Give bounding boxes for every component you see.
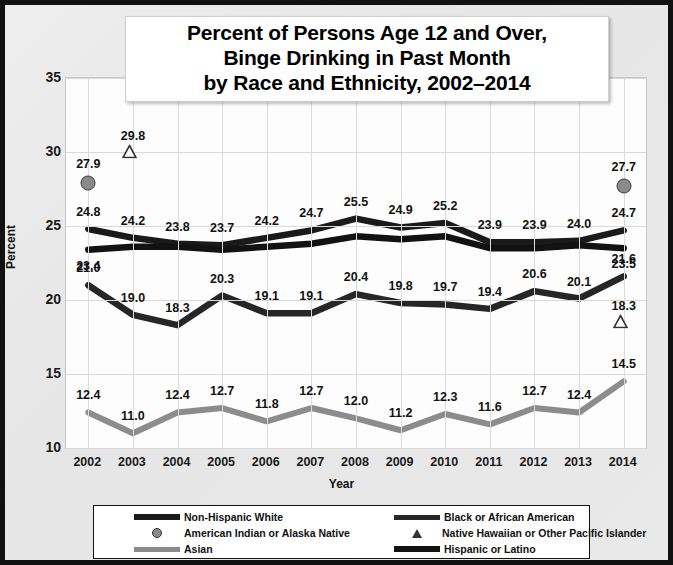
legend-item[interactable]: Non-Hispanic White xyxy=(134,509,283,525)
data-point-label: 18.3 xyxy=(165,301,189,315)
data-point-label: 27.9 xyxy=(76,157,100,171)
data-point-label: 24.7 xyxy=(299,206,323,220)
y-axis-tick-label: 20 xyxy=(15,291,61,307)
legend-row: American Indian or Alaska NativeNative H… xyxy=(94,525,589,541)
title-line-2: Binge Drinking in Past Month xyxy=(134,46,600,71)
data-point-label: 18.3 xyxy=(612,299,636,313)
x-axis-title: Year xyxy=(5,477,673,491)
y-axis-tick-label: 25 xyxy=(15,217,61,233)
data-point-label: 20.6 xyxy=(522,267,546,281)
data-point-label: 24.7 xyxy=(612,206,636,220)
plot-area: 24.824.223.823.724.224.725.524.925.223.9… xyxy=(65,77,647,449)
legend-line-icon xyxy=(394,546,440,552)
data-point-label: 19.7 xyxy=(433,280,457,294)
data-point-label: 27.7 xyxy=(612,160,636,174)
data-point-label: 21.0 xyxy=(76,261,100,275)
data-point-label: 23.8 xyxy=(165,220,189,234)
data-point-label: 20.4 xyxy=(344,270,368,284)
data-point-label: 20.1 xyxy=(567,275,591,289)
legend-line-icon xyxy=(394,515,440,520)
data-point-label: 12.7 xyxy=(299,384,323,398)
gridline-vertical xyxy=(356,78,357,448)
legend-line-icon xyxy=(134,514,180,520)
data-point-label: 19.4 xyxy=(478,285,502,299)
data-point-label: 12.4 xyxy=(165,388,189,402)
title-line-3: by Race and Ethnicity, 2002–2014 xyxy=(134,71,600,96)
legend-item-label: American Indian or Alaska Native xyxy=(184,527,350,539)
marker-circle xyxy=(616,179,631,194)
legend-item-label: Native Hawaiian or Other Pacific Islande… xyxy=(442,527,646,539)
legend-item-label: Non-Hispanic White xyxy=(184,511,283,523)
data-point-label: 11.8 xyxy=(255,397,279,411)
data-point-label: 19.8 xyxy=(388,279,412,293)
legend-triangle-icon xyxy=(412,529,422,538)
data-point-label: 24.9 xyxy=(388,203,412,217)
data-point-label: 12.7 xyxy=(522,384,546,398)
x-axis-tick-label: 2014 xyxy=(596,455,650,469)
legend-item-label: Black or African American xyxy=(444,511,575,523)
data-point-label: 24.0 xyxy=(567,217,591,231)
data-point-label: 12.4 xyxy=(567,388,591,402)
data-point-label: 23.9 xyxy=(478,218,502,232)
y-axis-title: Percent xyxy=(4,225,18,269)
y-axis-tick-label: 35 xyxy=(15,69,61,85)
data-point-label: 19.0 xyxy=(121,291,145,305)
x-axis-ticks: 2002200320042005200620072008200920102011… xyxy=(65,455,647,475)
legend-line-icon xyxy=(134,547,180,552)
y-axis-tick-label: 10 xyxy=(15,439,61,455)
chart-legend: Non-Hispanic WhiteBlack or African Ameri… xyxy=(93,505,590,559)
chart-title: Percent of Persons Age 12 and Over, Bing… xyxy=(125,16,609,102)
y-axis-tick-label: 15 xyxy=(15,365,61,381)
data-point-label: 24.2 xyxy=(121,214,145,228)
marker-triangle xyxy=(129,151,137,158)
data-point-label: 20.3 xyxy=(210,272,234,286)
data-point-label: 12.7 xyxy=(210,384,234,398)
marker-circle xyxy=(81,176,96,191)
data-point-label: 21.6 xyxy=(612,252,636,266)
data-point-label: 12.0 xyxy=(344,394,368,408)
y-axis-tick-label: 30 xyxy=(15,143,61,159)
data-point-label: 14.5 xyxy=(612,357,636,371)
data-point-label: 23.7 xyxy=(210,221,234,235)
gridline-horizontal xyxy=(66,448,646,449)
data-point-label: 11.0 xyxy=(121,409,145,423)
legend-item[interactable]: Hispanic or Latino xyxy=(394,541,536,557)
data-point-label: 24.8 xyxy=(76,205,100,219)
data-point-label: 23.9 xyxy=(522,218,546,232)
legend-row: AsianHispanic or Latino xyxy=(94,541,589,557)
data-point-label: 12.3 xyxy=(433,390,457,404)
gridline-vertical xyxy=(490,78,491,448)
data-point-label: 12.4 xyxy=(76,388,100,402)
title-line-1: Percent of Persons Age 12 and Over, xyxy=(134,21,600,46)
legend-item-label: Asian xyxy=(184,543,213,555)
marker-triangle xyxy=(620,322,628,329)
legend-item[interactable]: Asian xyxy=(134,541,213,557)
data-point-label: 24.2 xyxy=(255,214,279,228)
data-point-label: 25.5 xyxy=(344,195,368,209)
data-point-label: 19.1 xyxy=(255,289,279,303)
gridline-vertical xyxy=(401,78,402,448)
data-point-label: 29.8 xyxy=(121,129,145,143)
data-point-label: 11.6 xyxy=(478,400,502,414)
legend-item[interactable]: Black or African American xyxy=(394,509,575,525)
legend-item-label: Hispanic or Latino xyxy=(444,543,536,555)
data-point-label: 11.2 xyxy=(389,406,413,420)
chart-frame: 24.824.223.823.724.224.725.524.925.223.9… xyxy=(0,0,673,565)
legend-item[interactable]: Native Hawaiian or Other Pacific Islande… xyxy=(394,525,646,541)
data-point-label: 19.1 xyxy=(299,289,323,303)
legend-circle-icon xyxy=(152,528,162,538)
legend-row: Non-Hispanic WhiteBlack or African Ameri… xyxy=(94,509,589,525)
data-point-label: 25.2 xyxy=(433,199,457,213)
gridline-vertical xyxy=(267,78,268,448)
legend-item[interactable]: American Indian or Alaska Native xyxy=(134,525,350,541)
